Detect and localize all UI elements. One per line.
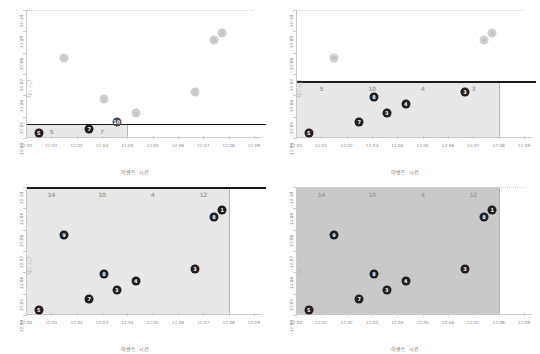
plot-area: 5104312:0012:0112:0212:0312:0412:0512:06…	[296, 10, 524, 138]
x-tick	[296, 136, 297, 139]
x-tick-label: 12:07	[467, 320, 479, 325]
group-shade	[127, 187, 178, 315]
group-separator	[499, 187, 500, 315]
plot-area: 5712:0012:0112:0212:0312:0412:0512:0612:…	[26, 10, 254, 138]
data-point-marker[interactable]: 3	[382, 109, 391, 118]
x-tick-label: 12:07	[467, 143, 479, 148]
data-point-marker[interactable]: 3	[460, 87, 469, 96]
x-tick-label: 12:07	[197, 320, 209, 325]
data-point-marker[interactable]: 4	[131, 277, 140, 286]
upper-bound-guide	[296, 10, 524, 11]
y-tick-label: 12:07	[289, 74, 294, 96]
x-axis-title: 이벤트 시간	[270, 345, 540, 352]
y-tick-label: 12:09	[19, 208, 24, 230]
x-tick-label: 12:03	[96, 320, 108, 325]
x-tick-label: 12:06	[442, 143, 454, 148]
data-point-marker[interactable]: 3	[190, 87, 199, 96]
x-tick	[153, 313, 154, 316]
x-tick	[347, 136, 348, 139]
x-tick	[473, 313, 474, 316]
data-point-marker[interactable]: 7	[355, 118, 364, 127]
data-point-marker[interactable]: 7	[85, 125, 94, 134]
group-shade	[347, 187, 398, 315]
watermark-threshold-line	[296, 81, 536, 83]
x-tick-label: 12:06	[442, 320, 454, 325]
data-point-marker[interactable]: 3	[382, 286, 391, 295]
x-tick	[26, 313, 27, 316]
x-tick	[321, 313, 322, 316]
data-point-marker[interactable]: 4	[131, 109, 140, 118]
x-tick	[77, 313, 78, 316]
x-tick-label: 12:02	[70, 143, 82, 148]
x-tick	[229, 136, 230, 139]
x-tick	[499, 136, 500, 139]
data-point-marker[interactable]: 10	[112, 118, 121, 127]
data-point-marker[interactable]: 9	[330, 54, 339, 63]
x-tick-label: 12:08	[222, 143, 234, 148]
data-point-marker[interactable]: 1	[488, 29, 497, 38]
data-point-marker[interactable]: 7	[85, 295, 94, 304]
data-point-marker[interactable]: 9	[330, 231, 339, 240]
x-tick	[347, 313, 348, 316]
x-tick	[127, 313, 128, 316]
data-point-marker[interactable]: 8	[209, 36, 218, 45]
x-tick-label: 12:04	[391, 143, 403, 148]
data-point-marker[interactable]: 5	[34, 128, 43, 137]
data-point-marker[interactable]: 5	[34, 305, 43, 314]
x-tick-label: 12:05	[416, 320, 428, 325]
data-point-marker[interactable]: 3	[112, 286, 121, 295]
x-tick-label: 12:05	[416, 143, 428, 148]
x-tick-label: 12:08	[492, 320, 504, 325]
y-tick-label: 12:10	[289, 187, 294, 209]
x-tick-label: 12:03	[366, 143, 378, 148]
x-tick-label: 12:01	[45, 143, 57, 148]
data-point-marker[interactable]: 8	[100, 270, 109, 279]
y-tick-label: 12:10	[19, 10, 24, 32]
data-point-marker[interactable]: 8	[370, 93, 379, 102]
y-tick-label: 12:10	[19, 187, 24, 209]
y-tick-label: 12:06	[19, 95, 24, 117]
data-point-marker[interactable]: 8	[209, 213, 218, 222]
x-tick	[397, 313, 398, 316]
y-tick-label: 12:04	[19, 315, 24, 337]
x-tick-label: 12:01	[45, 320, 57, 325]
y-tick-label: 12:05	[19, 294, 24, 316]
group-count-label: 5	[319, 85, 323, 92]
data-point-marker[interactable]: 1	[488, 206, 497, 215]
data-point-marker[interactable]: 8	[100, 94, 109, 103]
y-tick-label: 12:09	[289, 208, 294, 230]
group-count-label: 3	[471, 85, 475, 92]
data-point-marker[interactable]: 7	[355, 295, 364, 304]
group-shade	[397, 187, 448, 315]
data-point-marker[interactable]: 3	[460, 264, 469, 273]
plot-area: 141041212:0012:0112:0212:0312:0412:0512:…	[26, 187, 254, 315]
y-tick-label: 12:08	[19, 53, 24, 75]
x-tick	[473, 136, 474, 139]
data-point-marker[interactable]: 5	[304, 305, 313, 314]
data-point-marker[interactable]: 9	[60, 231, 69, 240]
group-count-label: 10	[368, 85, 376, 92]
y-tick-label: 12:04	[289, 315, 294, 337]
data-point-marker[interactable]: 1	[218, 29, 227, 38]
x-tick	[321, 136, 322, 139]
y-tick-label: 12:09	[289, 31, 294, 53]
data-point-marker[interactable]: 1	[218, 206, 227, 215]
x-tick	[127, 136, 128, 139]
x-tick-label: 12:08	[222, 320, 234, 325]
data-point-marker[interactable]: 8	[370, 270, 379, 279]
data-point-marker[interactable]: 8	[479, 213, 488, 222]
group-count-label: 10	[368, 191, 376, 198]
x-axis-title: 이벤트 시간	[270, 168, 540, 175]
y-tick-label: 12:07	[289, 251, 294, 273]
data-point-marker[interactable]: 4	[401, 100, 410, 109]
data-point-marker[interactable]: 4	[401, 277, 410, 286]
data-point-marker[interactable]: 9	[60, 54, 69, 63]
y-tick-label: 12:10	[289, 10, 294, 32]
data-point-marker[interactable]: 3	[190, 264, 199, 273]
group-separator	[229, 187, 230, 315]
data-point-marker[interactable]: 8	[479, 36, 488, 45]
x-axis-title: 이벤트 시간	[0, 345, 270, 352]
data-point-marker[interactable]: 5	[304, 128, 313, 137]
x-tick	[524, 136, 525, 139]
x-tick	[229, 313, 230, 316]
